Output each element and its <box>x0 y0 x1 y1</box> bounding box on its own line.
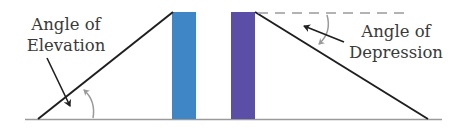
depression-pointer-arrow <box>304 26 344 42</box>
elevation-label-line2: Elevation <box>27 36 106 55</box>
depression-label-line2: Depression <box>349 43 443 62</box>
depression-label-line1: Angle of <box>360 22 432 41</box>
elevation-angle-arc <box>84 90 94 118</box>
left-tower <box>172 12 196 119</box>
depression-angle-arc <box>319 15 328 44</box>
elevation-pointer-arrow <box>47 58 70 106</box>
right-tower <box>231 12 255 119</box>
elevation-label-line1: Angle of <box>30 15 102 34</box>
angle-diagram: Angle of Elevation Angle of Depression <box>0 0 461 130</box>
